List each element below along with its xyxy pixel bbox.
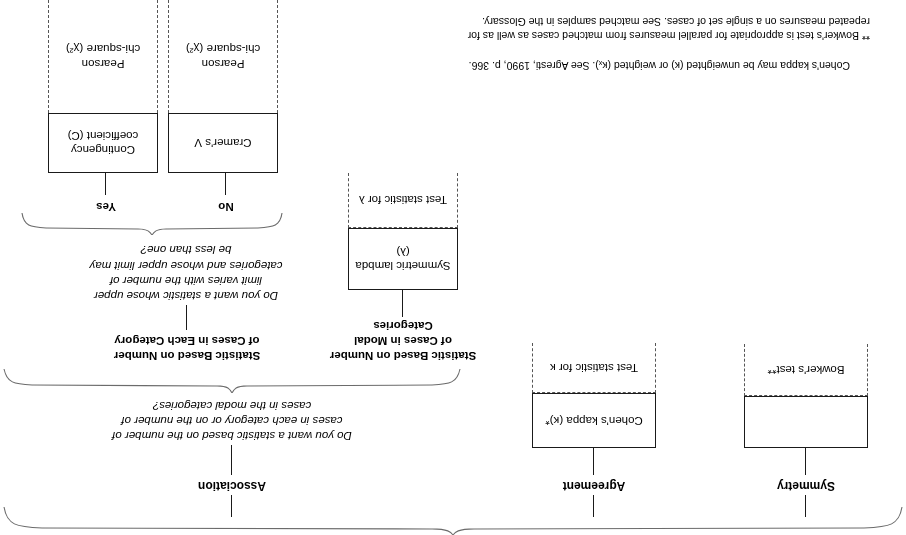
each-category-question-line-2: limit varies with the number of [46,273,326,288]
agreement-result-box: Cohen's kappa (κ)* [532,393,656,448]
pearson-chi-square-no-line-2: chi-square (χ²) [186,42,260,56]
pearson-chi-square-box-yes: Pearson chi-square (χ²) [48,0,158,113]
each-category-question-line-4: be less than one? [46,242,326,257]
symmetry-test-label: Bowker's test** [768,362,845,376]
pearson-chi-square-yes-line-2: chi-square (χ²) [66,42,140,56]
flowchart-canvas: Symmetry Agreement Association Bowker's … [0,0,906,535]
contingency-coefficient-box: Contingency coefficient (C) [48,113,158,173]
agreement-test-box: Test statistic for κ [532,343,656,393]
footnote-bowker-line-2: repeated measures on a single set of cas… [290,15,870,29]
heading-modal-categories-line-2: of Cases in Modal [278,333,528,348]
yes-no-brace [20,211,284,235]
pearson-chi-square-no-line-1: Pearson [202,57,245,71]
answer-yes-label: Yes [76,201,136,213]
root-brace [2,505,904,535]
connector-no [225,173,226,195]
connector-each-category [186,305,187,330]
connector-modal-categories [402,290,403,317]
association-question-line-3: cases in the modal categories? [62,397,402,412]
heading-each-category-line-2: of Cases in Each Category [62,333,312,348]
association-question-line-1: Do you want a statistic based on the num… [62,428,402,443]
symmetric-lambda-line-1: Symmetric lambda (λ) [349,245,457,274]
connector-yes [105,173,106,195]
footnote-kappa: Cohen's kappa may be unweighted (κ) or w… [290,59,850,73]
cramers-v-box: Cramer's V [168,113,278,173]
heading-each-category: Statistic Based on Number of Cases in Ea… [62,333,312,363]
connector-symmetry-up [805,448,806,475]
connector-agreement-down [593,495,594,517]
pearson-chi-square-box-no: Pearson chi-square (χ²) [168,0,278,113]
each-category-question-line-1: Do you want a statistic whose upper [46,288,326,303]
symmetry-result-box [744,396,868,448]
contingency-coefficient-line-2: coefficient (C) [68,129,139,143]
lambda-test-statistic-label: Test statistic for λ [359,193,447,207]
branch-label-symmetry: Symmetry [726,479,886,493]
footnote-bowker: ** Bowker's test is appropriate for para… [290,15,870,43]
connector-symmetry-down [805,495,806,517]
cramers-v-label: Cramer's V [194,136,251,150]
branch-label-association: Association [152,479,312,493]
association-question: Do you want a statistic based on the num… [62,397,402,443]
branch-label-agreement: Agreement [514,479,674,493]
footnote-kappa-text: Cohen's kappa may be unweighted (κ) or w… [469,60,850,72]
footnote-bowker-line-1: ** Bowker's test is appropriate for para… [290,29,870,43]
agreement-result-label: Cohen's kappa (κ)* [545,413,642,427]
each-category-question: Do you want a statistic whose upper limi… [46,242,326,303]
lambda-test-statistic-box: Test statistic for λ [348,173,458,228]
connector-association-down [231,495,232,517]
connector-agreement-up [593,448,594,475]
heading-modal-categories: Statistic Based on Number of Cases in Mo… [278,318,528,363]
answer-no-label: No [196,201,256,213]
agreement-test-label: Test statistic for κ [550,360,638,374]
heading-modal-categories-line-1: Statistic Based on Number [278,348,528,363]
contingency-coefficient-line-1: Contingency [71,143,135,157]
pearson-chi-square-yes-line-1: Pearson [82,57,125,71]
heading-each-category-line-1: Statistic Based on Number [62,348,312,363]
symmetric-lambda-box: Symmetric lambda (λ) [348,228,458,290]
association-split-brace [2,367,462,393]
symmetry-test-box: Bowker's test** [744,344,868,396]
connector-association-up [231,445,232,475]
each-category-question-line-3: categories and whose upper limit may [46,257,326,272]
heading-modal-categories-line-3: Categories [278,318,528,333]
association-question-line-2: cases in each category or on the number … [62,413,402,428]
